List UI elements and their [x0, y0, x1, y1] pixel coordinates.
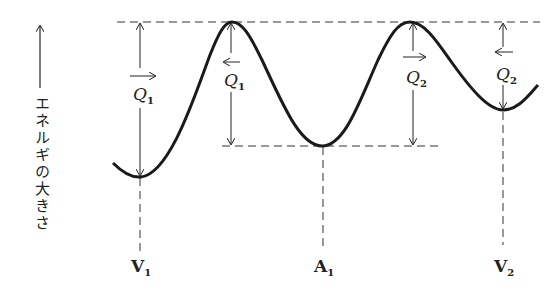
point-label-a1: A1	[314, 256, 334, 278]
point-label-v2: V2	[494, 256, 514, 278]
energy-curve	[113, 22, 538, 177]
barrier-label-q2-right: Q2	[496, 64, 517, 86]
energy-axis-label: エネルギの大きさ	[30, 96, 52, 232]
barrier-label-q2-left: Q2	[406, 67, 427, 89]
barrier-label-q1-left: Q1	[133, 84, 154, 106]
point-label-v1: V1	[131, 256, 151, 278]
barrier-label-q1-right: Q1	[224, 70, 245, 92]
energy-diagram	[0, 0, 555, 290]
